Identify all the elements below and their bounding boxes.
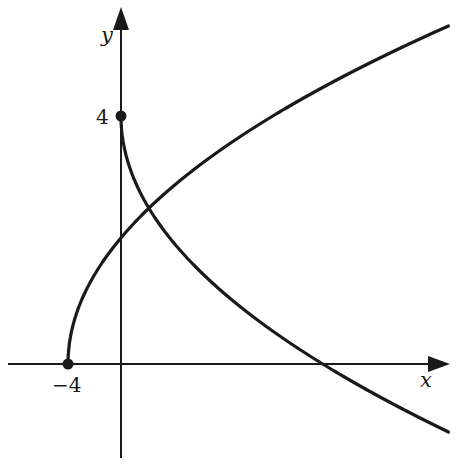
y-axis-label: y (100, 23, 114, 47)
y-axis-arrow-icon (113, 7, 129, 30)
descending-curve (121, 116, 449, 432)
rising-curve (68, 26, 448, 364)
x-intercept-dot (63, 359, 74, 370)
x-tick-label: −4 (52, 373, 81, 397)
x-axis-label: x (420, 368, 432, 392)
y-intercept-dot (116, 111, 127, 122)
y-tick-label: 4 (96, 105, 109, 129)
graph-canvas: y x 4 −4 (0, 0, 462, 466)
